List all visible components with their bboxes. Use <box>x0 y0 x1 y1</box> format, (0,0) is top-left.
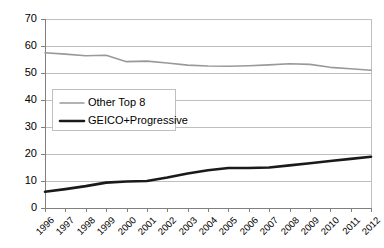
series-line-other-top-8 <box>45 53 371 71</box>
y-axis-tick-label: 60 <box>11 40 37 51</box>
y-axis-tick-label: 50 <box>11 67 37 78</box>
y-axis-tick-label: 40 <box>11 94 37 105</box>
legend-label: Other Top 8 <box>88 97 145 108</box>
y-axis-tick-label: 70 <box>11 13 37 24</box>
y-axis-tick-label: 30 <box>11 121 37 132</box>
y-axis-tick-label: 20 <box>11 148 37 159</box>
line-chart: 010203040506070 199619971998199920002001… <box>0 0 384 248</box>
y-axis-tick-label: 10 <box>11 175 37 186</box>
legend-label: GEICO+Progressive <box>88 115 188 126</box>
series-line-geico-progressive <box>45 157 371 192</box>
y-axis-tick-label: 0 <box>11 202 37 213</box>
chart-legend: Other Top 8GEICO+Progressive <box>52 89 176 131</box>
